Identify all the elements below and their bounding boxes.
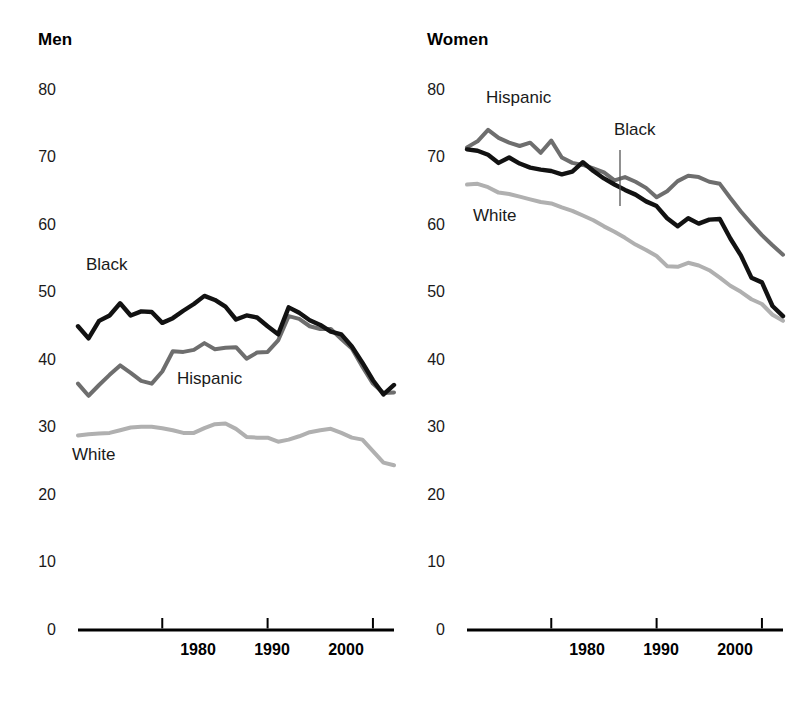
panel-men: Men 80 70 60 50 40 30 20 10 0 1980 1990 …: [0, 0, 403, 707]
women-plot-area: [403, 0, 806, 707]
panel-women: Women 80 70 60 50 40 30 20 10 0 1980 199…: [403, 0, 806, 707]
series-line-hispanic: [78, 316, 394, 396]
chart-figure: Men 80 70 60 50 40 30 20 10 0 1980 1990 …: [0, 0, 807, 707]
series-line-black: [467, 149, 783, 316]
men-plot-area: [0, 0, 403, 707]
series-line-white: [78, 423, 394, 465]
